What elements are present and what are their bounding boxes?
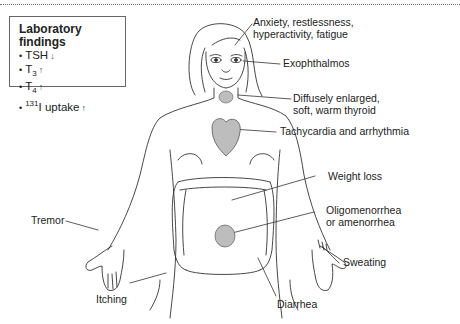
label-exophthalmos: Exophthalmos [283, 58, 350, 70]
label-itching: Itching [96, 294, 127, 306]
up-arrow-icon: ↑ [39, 65, 44, 75]
label-tremor: Tremor [31, 215, 64, 227]
uterus [215, 225, 235, 247]
lab-item-t4: •T4↑ [19, 80, 125, 98]
lab-item-t3: •T3↑ [19, 63, 125, 81]
up-arrow-icon: ↑ [81, 103, 86, 113]
label-thyroid: Diffusely enlarged, soft, warm thyroid [293, 93, 380, 116]
down-arrow-icon: ↓ [50, 51, 55, 61]
thyroid-gland [219, 91, 233, 103]
laboratory-findings-box: Laboratory findings •TSH↓ •T3↑ •T4↑ •131… [9, 16, 126, 87]
label-oligomenorrhea: Oligomenorrhea or amenorrhea [326, 205, 401, 228]
leg-line-left [150, 280, 160, 310]
lab-findings-title: Laboratory findings [19, 23, 125, 49]
label-sweating: Sweating [343, 257, 386, 269]
label-anxiety: Anxiety, restlessness, hyperactivity, fa… [253, 17, 354, 40]
heart [212, 119, 240, 156]
left-hand [86, 246, 124, 291]
label-tachycardia: Tachycardia and arrhythmia [280, 126, 409, 138]
up-arrow-icon: ↑ [39, 82, 44, 92]
lab-item-tsh: •TSH↓ [19, 49, 125, 63]
label-diarrhea: Diarrhea [277, 299, 317, 311]
face [206, 52, 245, 88]
lab-item-iodine-uptake: •131I uptake↑ [19, 98, 125, 114]
label-weight-loss: Weight loss [328, 171, 382, 183]
hair-outline [189, 24, 262, 96]
